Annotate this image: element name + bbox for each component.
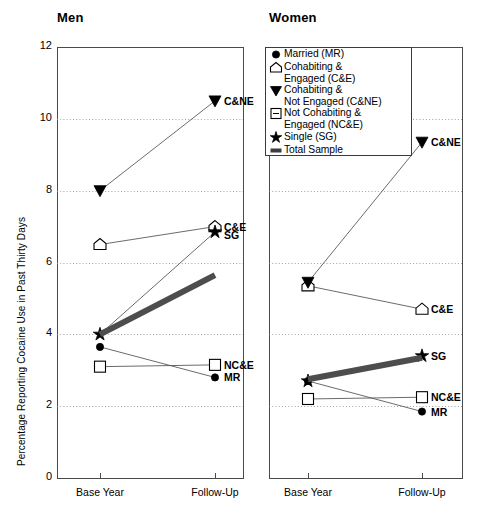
point-label-sg: SG — [224, 229, 239, 241]
filled-circle-icon — [272, 51, 279, 58]
y-tick-8: 8 — [30, 183, 52, 195]
series-women-nce: NC&E — [303, 391, 461, 404]
series-men-nce: NC&E — [95, 359, 254, 372]
y-tick-0: 0 — [30, 470, 52, 482]
y-tick-2: 2 — [30, 398, 52, 410]
connector-line — [100, 347, 215, 378]
star-icon — [270, 131, 281, 142]
legend-item-label: Married (MR) — [284, 48, 344, 60]
marker-open-square — [210, 359, 221, 370]
point-label-cne: C&NE — [224, 95, 254, 107]
open-square-icon — [269, 107, 284, 120]
legend-glyph-open-pentagon — [269, 61, 284, 74]
marker-open-square — [303, 393, 314, 404]
legend-glyph-filled-triangle-down — [269, 84, 284, 97]
thick-bar-icon — [271, 148, 282, 152]
point-label-nce: NC&E — [431, 391, 461, 403]
connector-line — [308, 286, 422, 309]
legend-glyph-thick-bar — [269, 144, 284, 157]
connector-line — [308, 142, 422, 282]
marker-open-square — [95, 361, 106, 372]
legend-item-not: Not Cohabiting & Engaged (NC&E) — [266, 107, 411, 130]
x-tick-women-base-year: Base Year — [272, 486, 344, 498]
marker-filled-circle — [211, 374, 218, 381]
legend-item-label: Total Sample — [284, 144, 343, 156]
legend-item-total: Total Sample — [266, 144, 411, 157]
point-label-nce: NC&E — [224, 359, 254, 371]
marker-filled-triangle-down — [209, 96, 221, 107]
thick-bar-icon — [269, 144, 284, 157]
series-men-total — [100, 275, 215, 334]
legend-item-label: Single (SG) — [284, 131, 337, 143]
open-pentagon-icon — [269, 61, 284, 74]
legend-item-cohabiting: Cohabiting & Engaged (C&E) — [266, 61, 411, 84]
x-tick-men-base-year: Base Year — [64, 486, 136, 498]
series-men-cne: C&NE — [94, 95, 254, 197]
legend-item-single: Single (SG) — [266, 131, 411, 144]
filled-triangle-down-icon — [271, 87, 282, 97]
filled-circle-icon — [269, 48, 284, 61]
marker-filled-circle — [96, 343, 103, 350]
y-tick-12: 12 — [30, 39, 52, 51]
connector-line — [308, 381, 422, 412]
total-sample-line — [100, 275, 215, 334]
marker-open-pentagon — [94, 239, 106, 250]
y-tick-4: 4 — [30, 326, 52, 338]
series-women-cne: C&NE — [302, 136, 461, 288]
point-label-cne: C&NE — [431, 136, 461, 148]
legend-glyph-filled-circle — [269, 48, 284, 61]
y-tick-10: 10 — [30, 111, 52, 123]
legend-glyph-open-square — [269, 107, 284, 120]
series-women-total — [308, 358, 422, 380]
y-tick-6: 6 — [30, 255, 52, 267]
legend-item-label: Cohabiting & Engaged (C&E) — [284, 61, 355, 84]
point-label-ce: C&E — [431, 303, 453, 315]
marker-filled-circle — [418, 408, 425, 415]
legend-item-married: Married (MR) — [266, 48, 411, 61]
open-pentagon-icon — [271, 63, 282, 73]
point-label-mr: MR — [224, 371, 241, 383]
series-women-ce: C&E — [302, 280, 453, 315]
point-label-mr: MR — [431, 406, 448, 418]
legend-glyph-star — [269, 131, 284, 144]
point-label-sg: SG — [431, 350, 446, 362]
legend: Married (MR)Cohabiting & Engaged (C&E)Co… — [265, 47, 412, 156]
connector-line — [100, 365, 215, 367]
marker-open-square — [417, 392, 428, 403]
legend-item-label: Cohabiting & Not Engaged (C&NE) — [284, 84, 382, 107]
legend-item-cohabiting: Cohabiting & Not Engaged (C&NE) — [266, 84, 411, 107]
marker-filled-triangle-down — [416, 137, 428, 148]
figure-root: Men Women Percentage Reporting Cocaine U… — [0, 0, 484, 529]
total-sample-line — [308, 358, 422, 380]
marker-open-pentagon — [416, 303, 428, 314]
connector-line — [100, 227, 215, 245]
star-icon — [269, 131, 284, 144]
x-tick-women-follow-up: Follow-Up — [386, 486, 458, 498]
legend-item-label: Not Cohabiting & Engaged (NC&E) — [284, 107, 363, 130]
plot-frame-men — [58, 48, 244, 479]
connector-line — [100, 101, 215, 191]
x-tick-men-follow-up: Follow-Up — [179, 486, 251, 498]
filled-triangle-down-icon — [269, 84, 284, 97]
connector-line — [308, 397, 422, 399]
